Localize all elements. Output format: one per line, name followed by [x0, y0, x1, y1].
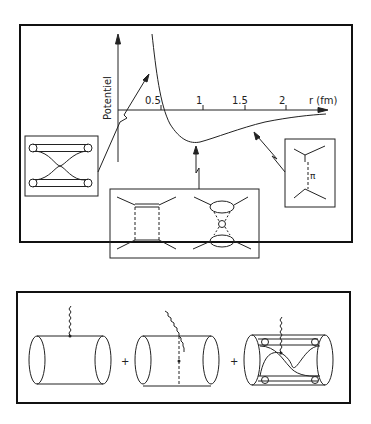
figure: Potentiel 0.5 1 1.5 2 r (fm): [0, 0, 371, 424]
potential-curve: [152, 34, 326, 142]
x-tick-0.5: 0.5: [145, 95, 161, 106]
x-axis: [118, 105, 328, 113]
y-axis-label: Potentiel: [102, 76, 113, 120]
top-panel-frame: [20, 25, 352, 242]
plus-sign-2: +: [230, 356, 238, 367]
inset-two-pion-exchange: [110, 189, 259, 258]
arrow-two-pion-exchange: [194, 146, 200, 189]
vertex-dot: [280, 352, 283, 355]
vertex-dot: [178, 360, 181, 363]
cylinder-quark-exchange: [244, 317, 333, 385]
cylinder-pion-exchange: [135, 311, 219, 386]
plus-sign-1: +: [121, 356, 129, 367]
x-tick-2: 2: [279, 95, 285, 106]
x-tick-1.5: 1.5: [232, 95, 248, 106]
pion-label: π: [310, 171, 316, 181]
cylinder-one-body: [29, 306, 111, 384]
vertex-dot: [69, 335, 72, 338]
x-tick-1: 1: [196, 95, 202, 106]
inset-quark-exchange: [25, 136, 98, 196]
x-axis-label: r (fm): [309, 95, 337, 106]
y-axis: [116, 34, 121, 162]
arrow-one-pion-exchange: [254, 132, 285, 172]
